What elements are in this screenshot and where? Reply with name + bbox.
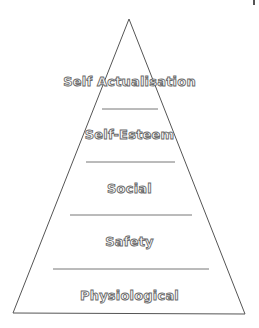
level-self-actualisation: Self Actualisation: [0, 74, 259, 90]
level-safety: Safety: [0, 234, 259, 250]
corner-artifact: [253, 0, 255, 5]
level-social: Social: [0, 181, 259, 197]
level-physiological: Physiological: [0, 288, 259, 304]
pyramid-outline: [0, 0, 259, 328]
pyramid-triangle: [13, 19, 245, 314]
level-self-esteem: Self-Esteem: [0, 127, 259, 143]
